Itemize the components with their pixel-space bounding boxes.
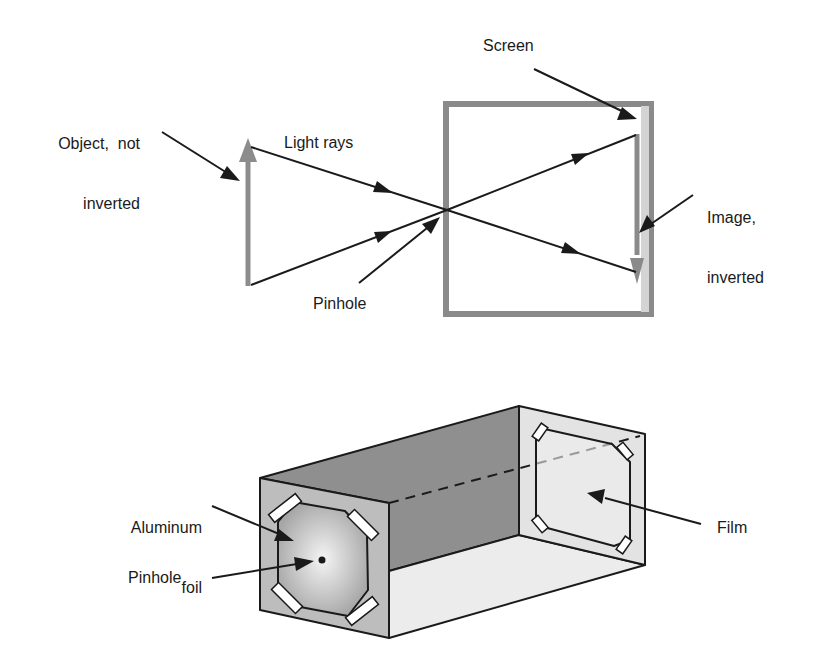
arrowhead-icon [373, 181, 393, 193]
label-image-line1: Image, [707, 208, 764, 228]
caption-fragments [0, 658, 828, 666]
arrowhead-icon [571, 153, 589, 165]
pinhole-camera-figure: Object, not inverted Light rays Pinhole … [0, 0, 828, 666]
label-film: Film [717, 518, 747, 538]
label-object-line2: inverted [30, 194, 140, 214]
label-image-line2: inverted [707, 268, 764, 288]
screen-strip [641, 106, 649, 312]
label-aluminum-foil: Aluminum foil [100, 478, 202, 638]
label-object: Object, not inverted [30, 94, 140, 254]
label-aluminum-foil-line1: Aluminum [100, 518, 202, 538]
object-arrow-icon [239, 138, 257, 286]
label-pinhole-top: Pinhole [313, 294, 366, 314]
screen-pointer [534, 69, 637, 120]
object-pointer [162, 132, 240, 181]
bottom-panel [212, 406, 701, 638]
pinhole-pointer [359, 217, 440, 283]
enclosure-box [446, 104, 651, 314]
caption-cutoff [0, 655, 828, 666]
label-pinhole-bottom: Pinhole [128, 568, 181, 588]
arrowhead-icon [561, 242, 581, 254]
label-screen: Screen [483, 36, 534, 56]
label-light-rays: Light rays [284, 133, 353, 153]
pinhole-dot [319, 557, 326, 564]
top-panel [162, 69, 693, 314]
label-object-line1: Object, not [30, 134, 140, 154]
label-image: Image, inverted [707, 168, 764, 328]
arrowhead-icon [374, 231, 392, 243]
